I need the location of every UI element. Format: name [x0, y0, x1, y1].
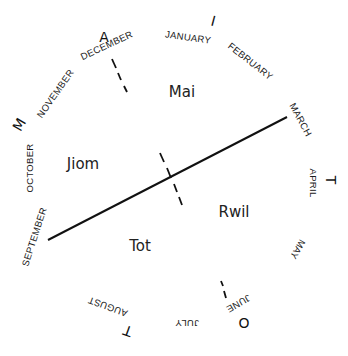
- letter-m: M: [9, 115, 29, 133]
- season-label-jiom: Jiom: [66, 155, 99, 173]
- month-label-january: JANUARY: [164, 28, 212, 45]
- letter-a: A: [99, 29, 109, 45]
- letter-t: T: [120, 322, 135, 340]
- season-label-rwil: Rwil: [218, 203, 249, 221]
- letter-t: T: [323, 175, 339, 185]
- month-label-march: MARCH: [287, 101, 314, 138]
- letter-o: O: [238, 315, 249, 331]
- month-label-april: APRIL: [308, 169, 319, 198]
- month-label-february: FEBRUARY: [226, 40, 276, 82]
- month-label-july: JULY: [175, 318, 199, 329]
- seasonal-calendar-diagram: JANUARYFEBRUARYMARCHAPRILMAYJUNEJULYAUGU…: [0, 0, 348, 356]
- letter-i: I: [209, 13, 217, 30]
- cardinal-letters: AIMTOT: [9, 13, 339, 340]
- month-label-may: MAY: [288, 238, 308, 262]
- solid-axis-line: [48, 117, 287, 240]
- month-label-august: AUGUST: [86, 295, 129, 319]
- season-labels: MaiJiomRwilTot: [66, 83, 250, 255]
- month-label-october: OCTOBER: [24, 144, 35, 193]
- season-label-mai: Mai: [169, 83, 195, 101]
- month-labels: JANUARYFEBRUARYMARCHAPRILMAYJUNEJULYAUGU…: [19, 28, 319, 329]
- diagram-canvas: JANUARYFEBRUARYMARCHAPRILMAYJUNEJULYAUGU…: [0, 0, 348, 356]
- month-label-june: JUNE: [224, 293, 252, 316]
- season-label-tot: Tot: [128, 237, 151, 255]
- month-label-november: NOVEMBER: [34, 67, 76, 120]
- month-label-september: SEPTEMBER: [19, 206, 48, 268]
